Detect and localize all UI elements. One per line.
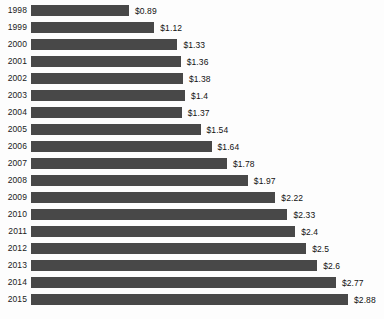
chart-bar-row: 2013$2.6 <box>0 257 384 274</box>
category-label: 2003 <box>0 91 27 100</box>
chart-bar-row: 2000$1.33 <box>0 36 384 53</box>
bar-value-label: $1.36 <box>187 57 209 67</box>
category-label: 2015 <box>0 295 27 304</box>
chart-bar-row: 2008$1.97 <box>0 172 384 189</box>
bar-value-label: $1.54 <box>207 125 229 135</box>
bar <box>31 107 182 118</box>
category-label: 2002 <box>0 74 27 83</box>
bar <box>31 141 212 152</box>
bar-track: $2.4 <box>31 223 384 240</box>
chart-bar-row: 2014$2.77 <box>0 274 384 291</box>
bar-track: $1.4 <box>31 87 384 104</box>
chart-bar-row: 2007$1.78 <box>0 155 384 172</box>
bar-track: $1.37 <box>31 104 384 121</box>
bar <box>31 243 306 254</box>
bar-track: $2.88 <box>31 291 384 308</box>
category-label: 2011 <box>0 227 27 236</box>
category-label: 2000 <box>0 40 27 49</box>
bar-value-label: $2.88 <box>354 295 376 305</box>
category-label: 1998 <box>0 6 27 15</box>
bar-track: $1.64 <box>31 138 384 155</box>
bar-value-label: $1.4 <box>191 91 208 101</box>
category-label: 2005 <box>0 125 27 134</box>
bar <box>31 90 185 101</box>
bar-value-label: $1.64 <box>218 142 240 152</box>
bar-chart: 1998$0.891999$1.122000$1.332001$1.362002… <box>0 0 384 319</box>
chart-plot-area: 1998$0.891999$1.122000$1.332001$1.362002… <box>0 2 384 308</box>
bar <box>31 226 295 237</box>
chart-bar-row: 2009$2.22 <box>0 189 384 206</box>
chart-bar-row: 2002$1.38 <box>0 70 384 87</box>
bar-value-label: $1.78 <box>233 159 255 169</box>
chart-bar-row: 1998$0.89 <box>0 2 384 19</box>
bar <box>31 124 201 135</box>
bar-track: $1.12 <box>31 19 384 36</box>
category-label: 2004 <box>0 108 27 117</box>
chart-bar-row: 2005$1.54 <box>0 121 384 138</box>
chart-bar-row: 2004$1.37 <box>0 104 384 121</box>
chart-bar-row: 2003$1.4 <box>0 87 384 104</box>
bar-track: $2.33 <box>31 206 384 223</box>
chart-bar-row: 2015$2.88 <box>0 291 384 308</box>
bar-value-label: $2.4 <box>301 227 318 237</box>
bar <box>31 175 248 186</box>
bar <box>31 294 348 305</box>
bar <box>31 22 154 33</box>
bar <box>31 56 181 67</box>
category-label: 2012 <box>0 244 27 253</box>
bar <box>31 73 183 84</box>
bar-track: $1.54 <box>31 121 384 138</box>
bar-value-label: $0.89 <box>135 6 157 16</box>
chart-bar-row: 2001$1.36 <box>0 53 384 70</box>
bar-track: $2.22 <box>31 189 384 206</box>
chart-bar-row: 2011$2.4 <box>0 223 384 240</box>
bar-value-label: $2.33 <box>293 210 315 220</box>
chart-bar-row: 2012$2.5 <box>0 240 384 257</box>
chart-bar-row: 1999$1.12 <box>0 19 384 36</box>
bar <box>31 277 336 288</box>
bar-track: $2.77 <box>31 274 384 291</box>
bar-track: $2.6 <box>31 257 384 274</box>
category-label: 2008 <box>0 176 27 185</box>
bar-track: $0.89 <box>31 2 384 19</box>
bar-track: $1.38 <box>31 70 384 87</box>
chart-bar-row: 2010$2.33 <box>0 206 384 223</box>
bar-value-label: $1.97 <box>254 176 276 186</box>
bar-track: $1.36 <box>31 53 384 70</box>
bar-value-label: $2.5 <box>312 244 329 254</box>
category-label: 2010 <box>0 210 27 219</box>
bar-track: $1.33 <box>31 36 384 53</box>
bar <box>31 5 129 16</box>
category-label: 2006 <box>0 142 27 151</box>
category-label: 1999 <box>0 23 27 32</box>
bar-value-label: $1.37 <box>188 108 210 118</box>
bar <box>31 260 317 271</box>
bar-value-label: $1.33 <box>183 40 205 50</box>
bar-track: $1.78 <box>31 155 384 172</box>
bar <box>31 158 227 169</box>
bar-value-label: $1.12 <box>160 23 182 33</box>
bar-value-label: $2.22 <box>281 193 303 203</box>
category-label: 2009 <box>0 193 27 202</box>
bar <box>31 39 177 50</box>
chart-bar-row: 2006$1.64 <box>0 138 384 155</box>
bar <box>31 209 287 220</box>
bar-value-label: $2.77 <box>342 278 364 288</box>
category-label: 2001 <box>0 57 27 66</box>
bar-track: $2.5 <box>31 240 384 257</box>
bar <box>31 192 275 203</box>
category-label: 2013 <box>0 261 27 270</box>
bar-value-label: $2.6 <box>323 261 340 271</box>
bar-value-label: $1.38 <box>189 74 211 84</box>
category-label: 2014 <box>0 278 27 287</box>
bar-track: $1.97 <box>31 172 384 189</box>
category-label: 2007 <box>0 159 27 168</box>
